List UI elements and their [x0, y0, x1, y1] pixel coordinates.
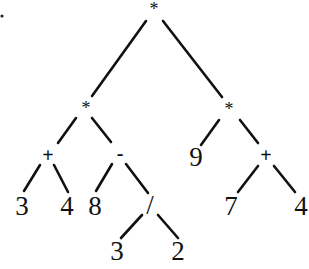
edge-left_mul-to-minus [92, 118, 111, 142]
edge-plus_left-to-three_a [24, 165, 40, 191]
node-root-multiply: * [150, 0, 159, 19]
node-left-plus: + [42, 144, 53, 166]
node-leaf-seven: 7 [224, 191, 238, 221]
expression-tree-diagram: * * * + - 9 + 3 4 8 / 7 4 3 2 [0, 0, 309, 269]
edge-minus-to-eight [96, 164, 112, 191]
node-leaf-two: 2 [171, 236, 185, 266]
edge-plus_left-to-four_a [54, 165, 68, 192]
node-leaf-three-a: 3 [15, 191, 29, 221]
edge-divide-to-two [158, 215, 178, 238]
edge-plus_right-to-seven [238, 166, 258, 192]
edge-root-to-left_mul [92, 21, 146, 96]
edge-right_mul-to-nine [201, 120, 219, 145]
node-leaf-three-b: 3 [110, 236, 124, 266]
edge-divide-to-three_b [121, 215, 142, 238]
node-leaf-four-b: 4 [294, 191, 308, 221]
node-right-multiply: * [225, 99, 234, 119]
edge-minus-to-divide [126, 164, 148, 193]
edge-plus_right-to-four_b [274, 166, 295, 192]
node-leaf-eight: 8 [88, 191, 102, 221]
tree-nodes: * * * + - 9 + 3 4 8 / 7 4 3 2 [15, 0, 308, 266]
node-divide: / [146, 190, 154, 220]
node-leaf-four-a: 4 [60, 191, 74, 221]
edge-left_mul-to-plus_left [58, 118, 76, 143]
edge-root-to-right_mul [163, 21, 222, 97]
node-right-plus: + [260, 144, 271, 166]
stray-dot-mark [0, 14, 3, 17]
node-left-multiply: * [82, 98, 91, 118]
edge-right_mul-to-plus_right [240, 120, 258, 143]
node-leaf-nine: 9 [189, 142, 203, 172]
node-minus: - [117, 142, 124, 164]
